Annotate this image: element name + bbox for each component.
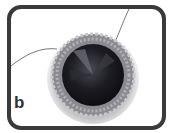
figure-label: b — [14, 94, 24, 111]
figure-frame — [7, 5, 166, 130]
beaded-rivoli-photo — [11, 9, 162, 126]
